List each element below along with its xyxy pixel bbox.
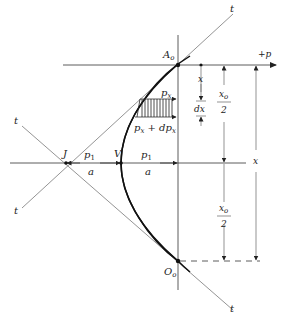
label-O0: Oo xyxy=(164,266,176,279)
label-A0: Ao xyxy=(162,49,174,62)
label-px: px xyxy=(161,87,171,100)
dim-label-x: x xyxy=(198,74,203,84)
pressure-strip-hatching xyxy=(135,99,176,117)
label-J: J xyxy=(61,148,68,159)
label-px-dpx: px + dpx xyxy=(134,122,176,135)
tangent-label-bottom-left: t xyxy=(14,205,19,216)
svg-text:xo: xo xyxy=(219,203,228,215)
point-V xyxy=(119,161,123,165)
tangent-label-bottom-right: t xyxy=(230,303,235,314)
svg-text:2: 2 xyxy=(220,105,227,115)
dim-label-x0-half-top: xo 2 xyxy=(217,89,231,115)
dim-label-dx: dx xyxy=(194,104,205,114)
tangent-label-top-right: t xyxy=(230,3,235,14)
svg-text:p1: p1 xyxy=(141,149,152,162)
svg-text:p1: p1 xyxy=(84,149,95,162)
svg-text:a: a xyxy=(145,166,151,177)
point-J xyxy=(64,161,68,165)
dim-label-x-total: x xyxy=(253,156,258,166)
dim-label-x0-half-bottom: xo 2 xyxy=(217,203,231,229)
parabola-pressure-diagram: t t t t +p Ao Oo J V px px + dpx p1 a p1… xyxy=(0,0,282,323)
point-A0 xyxy=(176,63,180,67)
svg-text:2: 2 xyxy=(220,219,227,229)
point-O0 xyxy=(176,259,180,263)
svg-text:xo: xo xyxy=(219,89,228,101)
axis-label-plus-p: +p xyxy=(258,49,272,59)
tangent-line-lower xyxy=(22,126,233,310)
svg-text:a: a xyxy=(88,166,94,177)
tangent-label-top-left: t xyxy=(14,115,19,126)
